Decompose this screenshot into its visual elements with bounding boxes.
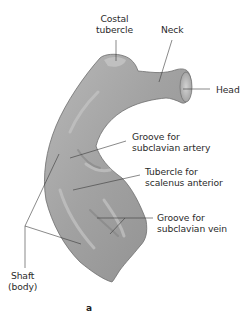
rib-head-shape — [180, 72, 192, 102]
label-costal-tubercle: Costal tubercle — [96, 13, 133, 35]
label-groove-vein-line2: subclavian vein — [157, 223, 227, 234]
label-tubercle-scalenus-anterior: Tubercle for scalenus anterior — [145, 166, 223, 188]
label-groove-subclavian-vein: Groove for subclavian vein — [157, 212, 227, 234]
label-tubercle-line1: Tubercle for — [145, 166, 223, 177]
label-costal-tubercle-line1: Costal — [96, 13, 133, 24]
label-costal-tubercle-line2: tubercle — [96, 24, 133, 35]
label-tubercle-line2: scalenus anterior — [145, 177, 223, 188]
panel-letter: a — [86, 303, 92, 313]
label-groove-artery-line2: subclavian artery — [132, 142, 210, 153]
label-head: Head — [216, 84, 240, 95]
label-shaft-line2: (body) — [8, 281, 37, 292]
label-neck: Neck — [161, 24, 184, 35]
label-groove-vein-line1: Groove for — [157, 212, 227, 223]
label-shaft-line1: Shaft — [8, 270, 37, 281]
label-shaft: Shaft (body) — [8, 270, 37, 292]
label-groove-subclavian-artery: Groove for subclavian artery — [132, 131, 210, 153]
label-groove-artery-line1: Groove for — [132, 131, 210, 142]
